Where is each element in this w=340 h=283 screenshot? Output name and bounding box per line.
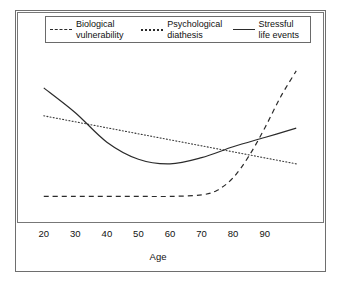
- x-axis-title-text: Age: [150, 251, 167, 262]
- figure-container: Biologicalvulnerability Psychologicaldia…: [0, 0, 340, 283]
- x-tick-label-20: 20: [32, 228, 56, 239]
- legend-label-line2: life events: [259, 30, 300, 40]
- legend-item-stressful-life-events: Stressfullife events: [233, 17, 310, 42]
- x-axis-title: Age: [0, 251, 340, 262]
- legend-item-label: Psychologicaldiathesis: [167, 19, 222, 40]
- series-line-biological-vulnerability: [44, 71, 296, 197]
- legend-item-label: Stressfullife events: [259, 19, 300, 40]
- x-tick-label-70: 70: [190, 228, 214, 239]
- legend-label-line1: Stressful: [259, 19, 294, 29]
- legend-label-line1: Psychological: [167, 19, 222, 29]
- dashed-line-icon: [50, 24, 72, 35]
- x-tick-label-60: 60: [158, 228, 182, 239]
- legend-item-biological-vulnerability: Biologicalvulnerability: [50, 17, 141, 42]
- x-tick-label-30: 30: [63, 228, 87, 239]
- series-line-stressful-life-events: [44, 88, 296, 164]
- x-tick-label-90: 90: [253, 228, 277, 239]
- x-tick-label-50: 50: [126, 228, 150, 239]
- x-axis-tick-labels: 2030405060708090: [0, 228, 340, 242]
- legend-item-psychological-diathesis: Psychologicaldiathesis: [141, 17, 232, 42]
- legend-label-line2: diathesis: [167, 30, 203, 40]
- legend-label-line1: Biological: [76, 19, 115, 29]
- x-tick-label-80: 80: [221, 228, 245, 239]
- chart-legend: Biologicalvulnerability Psychologicaldia…: [45, 16, 311, 43]
- x-tick-label-40: 40: [95, 228, 119, 239]
- dotted-line-icon: [141, 24, 163, 35]
- legend-label-line2: vulnerability: [76, 30, 124, 40]
- legend-item-label: Biologicalvulnerability: [76, 19, 124, 40]
- solid-line-icon: [233, 24, 255, 35]
